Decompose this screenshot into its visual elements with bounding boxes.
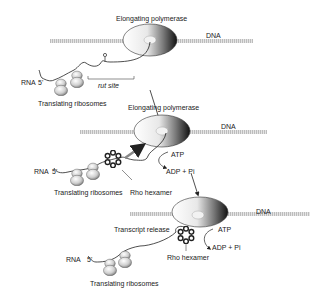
- dna-label: DNA: [221, 123, 236, 130]
- five-prime-label: 5': [38, 79, 43, 86]
- five-prime-label: 5': [87, 256, 92, 263]
- rho-hexamer: [178, 226, 193, 243]
- rho-translocation-arrow: [125, 146, 142, 158]
- rut-site-label: rut site: [98, 82, 119, 89]
- diagram-graphics: [0, 0, 316, 298]
- ribosomes-label: Translating ribosomes: [38, 100, 107, 107]
- atp-label: ATP: [171, 151, 184, 158]
- ribosomes-label: Translating ribosomes: [54, 189, 123, 196]
- ribosome: [70, 169, 83, 186]
- atp-label: ATP: [218, 226, 231, 233]
- hairpin: [103, 53, 106, 56]
- ribosome: [103, 259, 116, 276]
- ribosomes-label: Translating ribosomes: [90, 280, 159, 287]
- stage-1: [39, 24, 253, 128]
- rho-termination-diagram: Elongating polymerase DNA RNA 5' rut sit…: [0, 0, 316, 298]
- polymerase-label: Elongating polymerase: [128, 104, 199, 111]
- rna-label: RNA: [34, 168, 49, 175]
- rut-bracket: [88, 76, 134, 79]
- dna-label: DNA: [206, 32, 221, 39]
- flow-arrow: [191, 173, 198, 195]
- adp-label: ADP + Pi: [166, 168, 194, 175]
- atp-arrow: [159, 152, 168, 168]
- rna-label: RNA: [21, 79, 36, 86]
- rho-label: Rho hexamer: [167, 254, 209, 261]
- polymerase-label: Elongating polymerase: [116, 15, 187, 22]
- ribosome: [86, 163, 99, 180]
- ribosome: [118, 251, 131, 268]
- ribosome: [70, 71, 83, 88]
- dna-label: DNA: [256, 208, 271, 215]
- transcript-release-label: Transcript release: [114, 226, 170, 233]
- five-prime-label: 5': [52, 168, 57, 175]
- ribosome: [54, 79, 67, 96]
- stage-3: [88, 197, 310, 276]
- adp-label: ADP + Pi: [212, 244, 240, 251]
- rho-label: Rho hexamer: [130, 189, 172, 196]
- rna-label: RNA: [66, 256, 81, 263]
